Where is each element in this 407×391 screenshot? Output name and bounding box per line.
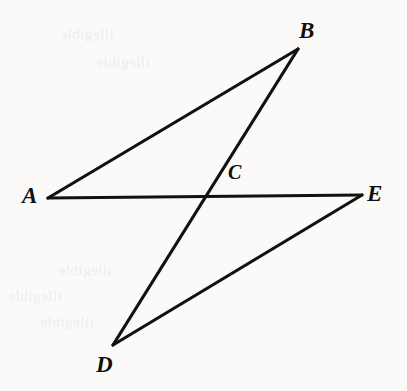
vertex-label-b: B [299,19,314,42]
diagram-canvas: illegible illegible illegible illegible … [0,0,407,391]
vertex-label-c: C [228,162,241,182]
vertex-label-e: E [367,182,382,205]
segment-ab [48,49,298,198]
segment-de [113,195,362,345]
vertex-label-d: D [96,353,113,376]
vertex-label-a: A [22,184,37,207]
segment-ae [48,195,362,198]
geometry-figure [0,0,407,391]
